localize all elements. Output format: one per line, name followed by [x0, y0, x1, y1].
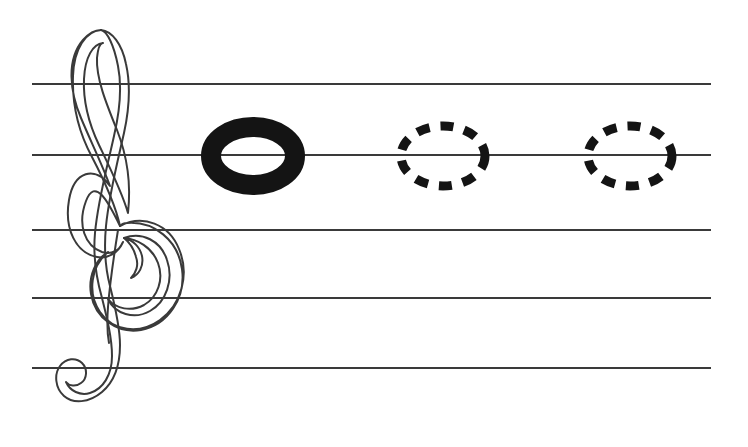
worksheet-canvas: Music Staff Note Tracing Worksheet	[0, 0, 748, 447]
filled-note-head	[211, 127, 295, 185]
music-staff-svg	[0, 0, 748, 447]
dashed-note-outline-1-ellipse[interactable]	[401, 126, 485, 186]
filled-note-head-ring	[211, 127, 295, 185]
dashed-note-outline-1[interactable]	[401, 126, 485, 186]
dashed-note-outline-2-ellipse[interactable]	[588, 126, 672, 186]
dashed-note-outline-2[interactable]	[588, 126, 672, 186]
treble-clef-inner-curl	[124, 238, 142, 278]
treble-clef	[56, 30, 184, 401]
